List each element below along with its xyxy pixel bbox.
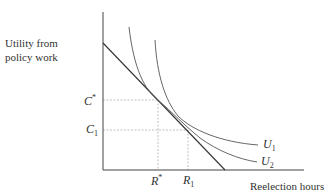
y-tick-c-star: C*	[84, 93, 96, 109]
indifference-diagram	[0, 0, 332, 194]
x-tick-r-star: R*	[151, 173, 162, 189]
budget-line	[103, 43, 225, 170]
y-tick-c1: C1	[86, 122, 98, 138]
curve-label-u1: U1	[263, 137, 276, 153]
indifference-curve-u2	[129, 27, 257, 162]
curve-label-u2: U2	[261, 154, 274, 170]
x-axis-label: Reelection hours	[250, 180, 324, 192]
x-tick-r1: R1	[183, 173, 194, 189]
indifference-curve-u1	[155, 40, 258, 145]
